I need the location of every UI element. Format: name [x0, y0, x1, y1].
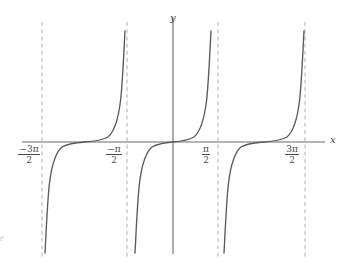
tangent-function-graph: y x −3π 2 −π 2 π 2 3π 2 e — [0, 0, 349, 267]
tick-label-neg-pi-over-two: −π 2 — [102, 145, 126, 166]
y-axis-label: y — [170, 13, 176, 23]
tick-label-pi-over-two: π 2 — [197, 145, 215, 166]
tick-label-neg-three-pi-over-two: −3π 2 — [14, 145, 44, 166]
edge-clipped-glyph: e — [0, 234, 4, 243]
graph-canvas — [0, 0, 349, 267]
fraction-three-pi-over-two: 3π 2 — [285, 145, 299, 166]
tick-label-three-pi-over-two: 3π 2 — [280, 145, 304, 166]
fraction-pi-over-two: π 2 — [202, 145, 210, 166]
fraction-neg-pi-over-two: −π 2 — [106, 145, 121, 166]
x-axis-label: x — [330, 135, 336, 145]
fraction-neg-three-pi-over-two: −3π 2 — [18, 145, 39, 166]
plot-background — [0, 0, 349, 267]
